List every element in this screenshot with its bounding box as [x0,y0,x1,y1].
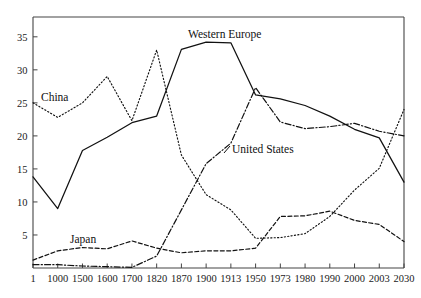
series-line-china [33,50,404,238]
series-label-japan: Japan [70,233,96,246]
x-tick-label: 2030 [394,273,415,284]
y-tick-label: 25 [17,98,28,109]
x-tick-label: 1500 [72,273,93,284]
y-tick-label: 20 [17,131,28,142]
series-label-western-europe: Western Europe [188,28,261,41]
x-tick-label: 1990 [319,273,340,284]
x-tick-label: 1950 [245,273,266,284]
x-tick-label: 1980 [295,273,316,284]
x-tick-label: 1900 [196,273,217,284]
y-axis-ticks: 5101520253035 [17,32,38,241]
x-tick-label: 1870 [171,273,192,284]
series-label-united-states: United States [232,143,294,155]
chart-axes [33,17,404,268]
x-tick-label: 2003 [369,273,390,284]
x-tick-label: 1700 [121,273,142,284]
x-tick-label: 1600 [97,273,118,284]
x-tick-label: 1973 [270,273,291,284]
x-tick-label: 2000 [344,273,365,284]
x-tick-label: 1000 [47,273,68,284]
chart-container: 5101520253035 11000150016001700182018701… [0,0,421,298]
y-tick-label: 30 [17,65,28,76]
x-tick-label: 1 [30,273,35,284]
y-tick-label: 5 [22,230,27,241]
y-tick-label: 35 [17,32,28,43]
x-tick-label: 1913 [220,273,241,284]
y-tick-label: 10 [17,197,28,208]
series-line-western-europe [33,42,404,208]
y-tick-label: 15 [17,164,28,175]
x-tick-label: 1820 [146,273,167,284]
chart-series-labels: Western EuropeChinaUnited StatesJapan [41,28,294,246]
series-label-china: China [41,91,68,103]
line-chart: 5101520253035 11000150016001700182018701… [0,0,421,298]
